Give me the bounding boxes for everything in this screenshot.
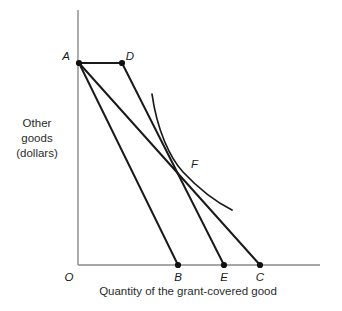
budget-line-a-b [79, 63, 178, 265]
indifference-curve-figure: A D F B E C O Other goods (dollars) Quan… [0, 0, 342, 311]
point-dot-b [175, 262, 181, 268]
point-label-f: F [191, 158, 199, 170]
y-axis-label-line-2: goods [21, 132, 53, 144]
y-axis-label-line-1: Other [23, 117, 52, 129]
point-label-e: E [220, 271, 228, 283]
indifference-curve [152, 94, 232, 210]
point-dot-e [221, 262, 227, 268]
budget-line-a-c [79, 63, 260, 265]
point-label-d: D [126, 50, 134, 62]
origin-label: O [65, 271, 74, 283]
point-dot-d [119, 60, 125, 66]
budget-line-d-e [122, 63, 224, 265]
y-axis-label-line-3: (dollars) [16, 147, 58, 159]
point-dot-a [76, 60, 82, 66]
point-dot-c [257, 262, 263, 268]
point-label-b: B [174, 271, 182, 283]
point-label-a: A [61, 50, 70, 62]
point-label-c: C [256, 271, 265, 283]
x-axis-label: Quantity of the grant-covered good [99, 285, 277, 297]
